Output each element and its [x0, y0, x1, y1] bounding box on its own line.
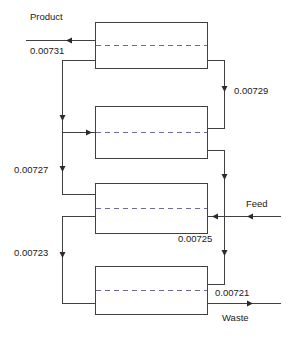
stage2-to-stage3-right-line — [208, 151, 225, 217]
left-riser-arrow-upper — [60, 115, 66, 121]
feed-label: Feed — [246, 199, 268, 209]
cascade-flow-diagram: Product 0.00731 0.00729 0.00727 0.00725 … — [0, 0, 286, 337]
stage2-inlet-arrow — [86, 130, 92, 136]
feed-flow-arrow — [247, 214, 253, 220]
value-mid-bottom-label: 0.00725 — [178, 234, 212, 244]
feed-junction-arrow — [212, 214, 218, 220]
waste-flow-arrow — [247, 301, 253, 307]
left-riser-arrow-mid — [60, 166, 66, 172]
right-downcomer-arrow-lower — [222, 250, 228, 256]
left-riser-arrow-lower — [60, 252, 66, 258]
value-left-low-label: 0.00723 — [14, 248, 48, 258]
value-right-low-label: 0.00721 — [215, 288, 249, 298]
right-downcomer-arrow-upper — [222, 86, 228, 92]
value-right-top-label: 0.00729 — [234, 86, 268, 96]
stage3-to-stage4-left-line — [63, 217, 96, 304]
value-left-mid-label: 0.00727 — [14, 165, 48, 175]
product-flow-arrow — [66, 38, 72, 44]
product-label: Product — [30, 12, 63, 22]
product-value-label: 0.00731 — [30, 46, 64, 56]
stage1-to-stage3-left-line — [63, 61, 96, 195]
stage1-to-stage2-right-line — [208, 61, 225, 129]
right-downcomer-arrow-mid — [222, 174, 228, 180]
waste-label: Waste — [222, 313, 249, 323]
